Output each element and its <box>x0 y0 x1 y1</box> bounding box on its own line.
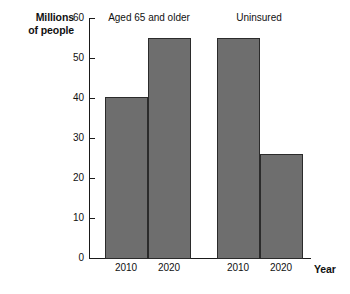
y-tick-label-30: 30 <box>52 133 84 143</box>
y-tick-label-20: 20 <box>52 173 84 183</box>
y-tick-label-60: 60 <box>52 13 84 23</box>
y-tick-label-10: 10 <box>52 213 84 223</box>
y-tick-label-0: 0 <box>52 253 84 263</box>
group-label-uninsured: Uninsured <box>206 12 312 23</box>
bar-uninsured-2020 <box>260 154 303 259</box>
x-tick-label-uninsured-2020: 2020 <box>255 262 307 273</box>
y-tick-label-50: 50 <box>52 53 84 63</box>
y-axis-title-line-2: of people <box>0 24 74 37</box>
x-axis-title: Year <box>314 263 336 275</box>
bar-chart: Millions of people 60 50 40 30 20 10 0 A… <box>0 0 350 294</box>
bar-aged65-2010 <box>105 97 148 259</box>
group-label-aged-65-and-older: Aged 65 and older <box>96 12 202 23</box>
bar-uninsured-2010 <box>217 38 260 259</box>
y-tick-label-40: 40 <box>52 93 84 103</box>
x-tick-label-aged65-2020: 2020 <box>143 262 195 273</box>
bar-aged65-2020 <box>148 38 191 259</box>
plot-area <box>89 18 311 259</box>
